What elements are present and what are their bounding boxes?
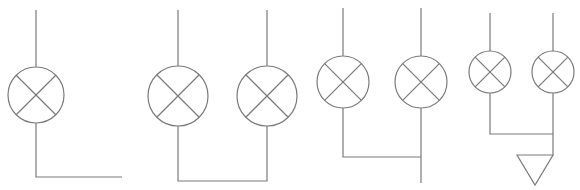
lamp-icon: [317, 56, 369, 108]
wire: [36, 123, 122, 177]
lamp-icon: [148, 66, 208, 126]
circuit-group-two-lamps-common-lead: [317, 8, 447, 183]
circuit-group-two-lamps-grounded: [469, 13, 574, 185]
circuit-group-two-lamps-closed-bus: [148, 10, 297, 181]
schematic-svg: [0, 0, 580, 190]
wire: [490, 93, 553, 134]
circuit-group-single-lamp: [8, 10, 122, 177]
lamp-icon: [532, 51, 574, 93]
lamp-icon: [395, 56, 447, 108]
wire: [178, 126, 267, 181]
lamp-icon: [237, 66, 297, 126]
schematic-canvas: [0, 0, 580, 190]
lamp-icon: [8, 67, 64, 123]
wire: [343, 108, 421, 157]
ground-triangle-icon: [517, 155, 553, 185]
lamp-icon: [469, 51, 511, 93]
